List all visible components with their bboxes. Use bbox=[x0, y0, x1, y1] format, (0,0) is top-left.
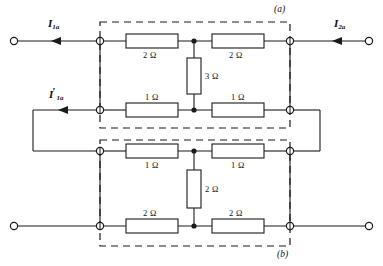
terminal-in-top-left bbox=[10, 37, 17, 44]
prime-mark: ′ bbox=[52, 85, 55, 97]
current-label-I1a: I1a bbox=[48, 18, 59, 29]
resistor-a-top-left bbox=[126, 34, 178, 48]
resistor-value-a-top-right: 2 Ω bbox=[229, 51, 243, 60]
wire-group-interconnect-right bbox=[294, 110, 320, 151]
resistor-b-bot-right bbox=[212, 219, 264, 233]
arrowhead-I2a bbox=[332, 37, 342, 45]
resistor-a-bot-right bbox=[212, 103, 264, 117]
resistor-a-top-right bbox=[212, 34, 264, 48]
current-subscript-I2a: 2a bbox=[338, 23, 345, 31]
current-label-I2a: I2a bbox=[334, 18, 345, 29]
arrowhead-I1a-prime bbox=[58, 106, 68, 114]
junction-dot-a-mid-bot bbox=[191, 107, 196, 112]
resistor-b-shunt bbox=[187, 170, 201, 208]
subfigure-label-a: (a) bbox=[274, 5, 285, 15]
current-subscript-I1a: 1a bbox=[52, 23, 59, 31]
wire-group-interconnect-left bbox=[33, 110, 96, 151]
resistor-value-b-bot-right: 2 Ω bbox=[229, 209, 243, 218]
terminal-in-bot-left bbox=[10, 222, 17, 229]
resistor-value-b-bot-left: 2 Ω bbox=[143, 209, 157, 218]
terminal-out-top-right bbox=[365, 37, 372, 44]
resistor-b-top-left bbox=[126, 144, 178, 158]
resistor-value-b-top-right: 1 Ω bbox=[231, 161, 245, 170]
junction-dot-b-mid-top bbox=[191, 148, 196, 153]
circuit-schematic-svg bbox=[0, 0, 383, 266]
circuit-diagram-canvas: (a) (b) I1a I2a I′1a 2 Ω 2 Ω 3 Ω 1 Ω 1 Ω… bbox=[0, 0, 383, 266]
resistor-b-top-right bbox=[212, 144, 264, 158]
resistor-value-b-top-left: 1 Ω bbox=[145, 161, 159, 170]
resistor-a-bot-left bbox=[126, 103, 178, 117]
resistor-value-a-top-left: 2 Ω bbox=[143, 51, 157, 60]
resistor-value-b-shunt: 2 Ω bbox=[205, 185, 219, 194]
resistor-value-a-shunt: 3 Ω bbox=[205, 72, 219, 81]
resistor-value-a-bot-right: 1 Ω bbox=[231, 93, 245, 102]
current-label-I1a-prime: I′1a bbox=[49, 89, 63, 100]
subfigure-label-b: (b) bbox=[277, 250, 288, 260]
arrowhead-I1a bbox=[51, 37, 61, 45]
resistor-a-shunt bbox=[187, 58, 201, 94]
resistor-b-bot-left bbox=[126, 219, 178, 233]
junction-dot-a-mid-top bbox=[191, 38, 196, 43]
terminal-out-bot-right bbox=[365, 222, 372, 229]
resistor-value-a-bot-left: 1 Ω bbox=[145, 93, 159, 102]
junction-dot-b-mid-bot bbox=[191, 223, 196, 228]
current-subscript-I1a-prime: 1a bbox=[56, 94, 63, 102]
